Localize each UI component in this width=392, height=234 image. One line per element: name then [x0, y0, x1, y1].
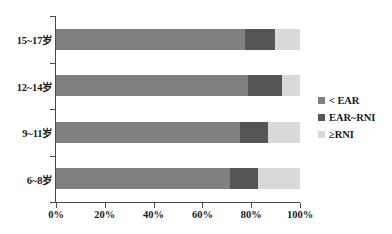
y-axis-tick [50, 156, 55, 157]
y-axis-tick [50, 109, 55, 110]
x-axis-label: 40% [134, 209, 174, 220]
legend-item[interactable]: < EAR [318, 92, 392, 109]
bar-row [56, 122, 300, 143]
legend-swatch-icon [318, 131, 325, 138]
bar-segment [268, 122, 300, 143]
y-axis-label: 12~14岁 [0, 79, 52, 94]
y-axis-tick [50, 63, 55, 64]
bar-segment [275, 29, 300, 50]
legend-label: < EAR [329, 95, 359, 106]
y-axis-label: 15~17岁 [0, 32, 52, 47]
bar-segment [248, 75, 282, 96]
bar-segment [240, 122, 268, 143]
bar-segment [245, 29, 275, 50]
legend-label: ≥RNI [329, 129, 354, 140]
legend-label: EAR~RNI [329, 112, 375, 123]
stacked-bar-chart: 15~17岁12~14岁9~11岁6~8岁 0%20%40%60%80%100%… [0, 0, 392, 234]
bar-segment [56, 75, 248, 96]
legend-swatch-icon [318, 114, 325, 121]
x-axis-tick [202, 203, 203, 208]
x-axis-label: 20% [85, 209, 125, 220]
bar-segment [230, 168, 258, 189]
bar-segment [56, 122, 240, 143]
x-axis-tick [105, 203, 106, 208]
bar-segment [56, 168, 230, 189]
x-axis-line [55, 202, 300, 203]
bar-row [56, 75, 300, 96]
x-axis-tick [251, 203, 252, 208]
y-axis-tick [50, 16, 55, 17]
x-axis-label: 0% [36, 209, 76, 220]
bar-row [56, 29, 300, 50]
chart-legend: < EAREAR~RNI≥RNI [318, 92, 392, 143]
plot-area [56, 16, 300, 202]
x-axis-tick [300, 203, 301, 208]
x-axis-tick [56, 203, 57, 208]
x-axis-label: 80% [231, 209, 271, 220]
legend-item[interactable]: EAR~RNI [318, 109, 392, 126]
x-axis-label: 100% [280, 209, 320, 220]
y-axis-label: 9~11岁 [0, 125, 52, 140]
bar-segment [258, 168, 300, 189]
bar-segment [282, 75, 300, 96]
legend-swatch-icon [318, 97, 325, 104]
legend-item[interactable]: ≥RNI [318, 126, 392, 143]
y-axis-label: 6~8岁 [0, 172, 52, 187]
bar-segment [56, 29, 245, 50]
bar-row [56, 168, 300, 189]
y-axis-tick [50, 202, 55, 203]
x-axis-tick [154, 203, 155, 208]
x-axis-label: 60% [182, 209, 222, 220]
